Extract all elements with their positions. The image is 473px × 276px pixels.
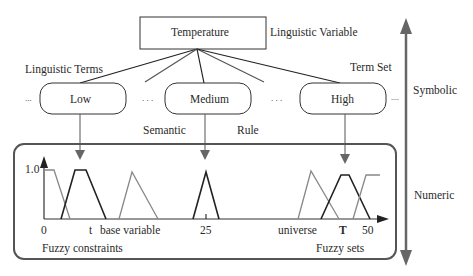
axis-base-variable: base variable: [100, 225, 160, 237]
y-tick-1: 1.0: [25, 164, 39, 176]
axis-50: 50: [362, 225, 374, 237]
axis-origin: 0: [41, 225, 47, 237]
fuzzy-sets-label: Fuzzy sets: [316, 243, 364, 255]
linguistic-terms-label: Linguistic Terms: [25, 64, 103, 76]
axis-T: T: [339, 225, 347, 237]
mf-left-shoulder: [44, 170, 70, 219]
axes: [40, 156, 389, 223]
axis-25: 25: [200, 225, 212, 237]
linguistic-variable-name: Temperature: [171, 27, 229, 39]
ellipsis-low-medium: . . .: [142, 94, 153, 103]
linguistic-variable-label: Linguistic Variable: [270, 27, 358, 39]
mf-high: [321, 175, 370, 219]
semantic-arrows: [75, 114, 350, 164]
axis-universe: universe: [278, 225, 317, 237]
symbolic-numeric-arrow: [400, 18, 412, 266]
ellipsis-right: ....: [391, 94, 399, 102]
term-high: High: [331, 94, 354, 106]
fuzzy-constraints-label: Fuzzy constraints: [42, 243, 123, 255]
mf-gray-triangle-2: [298, 171, 339, 219]
numeric-label: Numeric: [414, 190, 454, 202]
mf-gray-triangle-1: [119, 172, 158, 219]
membership-functions: [44, 170, 380, 219]
mf-medium: [193, 172, 219, 219]
axis-t: t: [89, 225, 92, 237]
ellipsis-left: ...: [25, 94, 32, 103]
ellipsis-medium-high: . . .: [271, 94, 282, 103]
term-set-label: Term Set: [350, 62, 392, 74]
semantic-label: Semantic: [143, 125, 186, 137]
fuzzy-linguistic-variable-diagram: [0, 0, 473, 276]
tree-connectors: [80, 49, 340, 83]
term-low: Low: [70, 94, 91, 106]
rule-label: Rule: [237, 125, 259, 137]
symbolic-label: Symbolic: [413, 85, 457, 97]
term-medium: Medium: [190, 94, 229, 106]
